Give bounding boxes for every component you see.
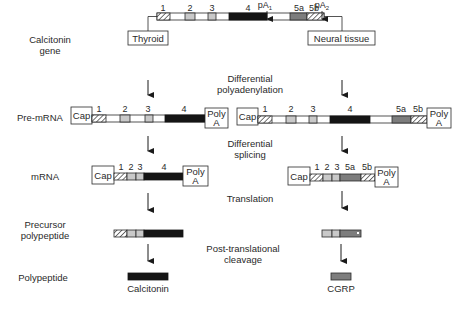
label-precursor-1: Precursor	[24, 219, 65, 230]
neural-tissue-label: Neural tissue	[314, 33, 369, 44]
step-labels: Differential polyadenylation Differentia…	[206, 73, 283, 265]
gene-exon-label-3: 3	[209, 3, 214, 13]
pa2-label: pA2	[315, 0, 330, 11]
step-cleavage-2: cleavage	[224, 254, 262, 265]
svg-text:5b: 5b	[413, 104, 423, 114]
step-polyadenylation-2: polyadenylation	[217, 84, 283, 95]
svg-text:A: A	[436, 117, 443, 128]
svg-text:2: 2	[122, 104, 127, 114]
neural-connector	[324, 17, 342, 32]
step-cleavage-1: Post-translational	[206, 243, 279, 254]
svg-text:1: 1	[118, 162, 123, 172]
gene-exon-label-4: 4	[245, 3, 250, 13]
step-splicing-2: splicing	[234, 149, 266, 160]
gene-exon-label-5a: 5a	[294, 3, 304, 13]
svg-text:A: A	[383, 176, 390, 187]
precursor-neural	[322, 230, 361, 237]
thyroid-connector	[148, 17, 157, 32]
svg-text:Cap: Cap	[290, 171, 307, 182]
gene-exon-label-2: 2	[187, 3, 192, 13]
gene-exon-4	[229, 13, 267, 20]
svg-text:4: 4	[161, 162, 166, 172]
mrna-thyroid: Cap 1 2 3 4 Poly A	[92, 162, 208, 186]
svg-text:A: A	[213, 117, 220, 128]
gene-exon-label-1: 1	[160, 3, 165, 13]
premrna-thyroid: Cap 1 2 3 4 Poly A	[71, 104, 228, 128]
cgrp-label: CGRP	[327, 283, 354, 294]
gene-exon-5a	[290, 13, 307, 20]
svg-text:5a: 5a	[345, 162, 355, 172]
product-cgrp: CGRP	[327, 273, 354, 294]
calcitonin-splicing-diagram: Calcitonin gene Pre-mRNA mRNA Precursor …	[0, 0, 466, 309]
svg-text:5a: 5a	[396, 104, 406, 114]
calcitonin-label: Calcitonin	[127, 283, 169, 294]
gene-exon-1	[157, 13, 170, 20]
svg-text:1: 1	[262, 104, 267, 114]
product-calcitonin: Calcitonin	[127, 273, 169, 294]
svg-text:5b: 5b	[362, 162, 372, 172]
step-translation: Translation	[227, 193, 274, 204]
row-labels: Calcitonin gene Pre-mRNA mRNA Precursor …	[17, 34, 71, 283]
svg-text:A: A	[192, 175, 199, 186]
tissue-thyroid: Thyroid	[128, 31, 168, 45]
svg-text:3: 3	[137, 162, 142, 172]
step-splicing-1: Differential	[227, 138, 272, 149]
mrna-neural: Cap 1 2 3 5a 5b Poly A	[288, 162, 398, 187]
label-calcitonin-gene-2: gene	[39, 45, 60, 56]
label-mrna: mRNA	[31, 171, 60, 182]
svg-text:1: 1	[96, 104, 101, 114]
svg-text:4: 4	[181, 104, 186, 114]
svg-text:3: 3	[334, 162, 339, 172]
svg-text:Cap: Cap	[239, 111, 256, 122]
svg-text:2: 2	[288, 104, 293, 114]
thyroid-label: Thyroid	[132, 33, 164, 44]
label-calcitonin-gene-1: Calcitonin	[29, 34, 71, 45]
svg-text:Cap: Cap	[94, 170, 111, 181]
svg-text:4: 4	[347, 104, 352, 114]
svg-text:Cap: Cap	[73, 110, 90, 121]
gene-exon-5b	[307, 13, 324, 20]
svg-text:2: 2	[128, 162, 133, 172]
label-precursor-2: polypeptide	[21, 230, 70, 241]
label-pre-mrna: Pre-mRNA	[17, 112, 64, 123]
gene-exon-2	[185, 13, 195, 20]
precursor-thyroid	[114, 230, 183, 237]
label-polypeptide: Polypeptide	[18, 272, 68, 283]
pa1-label: pA1	[258, 0, 273, 11]
premrna-neural: Cap 1 2 3 4 5a 5b Poly A	[237, 104, 451, 128]
tissue-neural: Neural tissue	[308, 31, 375, 45]
gene-exon-3	[208, 13, 216, 20]
svg-text:3: 3	[145, 104, 150, 114]
step-polyadenylation-1: Differential	[227, 73, 272, 84]
svg-text:1: 1	[314, 162, 319, 172]
svg-text:3: 3	[310, 104, 315, 114]
calcitonin-gene: 1 2 3 4 5a 5b pA1 pA2	[148, 0, 342, 31]
svg-text:2: 2	[324, 162, 329, 172]
